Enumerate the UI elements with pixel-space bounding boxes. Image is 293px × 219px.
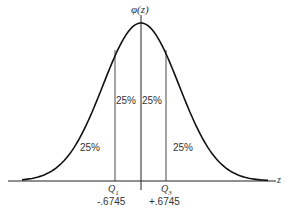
region-label-left-tail: 25%	[80, 142, 100, 153]
x-axis-label: z	[277, 174, 281, 185]
q3-label: Q3	[161, 183, 172, 197]
region-label-right-center: 25%	[142, 95, 162, 106]
q1-label: Q1	[108, 183, 119, 197]
normal-curve-diagram	[0, 0, 293, 219]
region-label-right-tail: 25%	[173, 142, 193, 153]
q3-value: +.6745	[149, 196, 180, 207]
region-label-left-center: 25%	[116, 95, 136, 106]
y-axis-label: φ(z)	[131, 3, 149, 15]
q1-value: -.6745	[97, 196, 125, 207]
